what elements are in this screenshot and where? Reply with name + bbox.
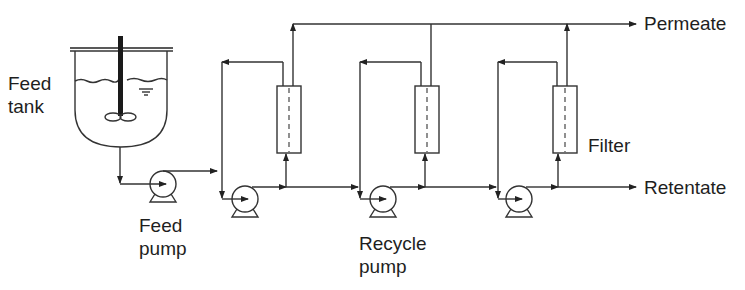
feed-pump — [150, 171, 217, 202]
feed-pump-label-line2: pump — [139, 237, 187, 260]
feed-pump-label-line1: Feed — [139, 214, 187, 237]
agitator-shaft — [118, 36, 123, 116]
stage-1 — [222, 24, 301, 217]
recycle-pump-2 — [370, 186, 396, 217]
feed-pump-label: Feed pump — [139, 214, 187, 260]
recycle-pump-label-line2: pump — [359, 255, 427, 278]
feed-line — [120, 147, 166, 184]
feed-tank-label: Feed tank — [8, 72, 51, 118]
retentate-label: Retentate — [644, 176, 726, 199]
recycle-pump-3 — [506, 186, 532, 217]
impeller-right — [120, 113, 136, 121]
impeller-left — [105, 113, 121, 121]
feed-tank — [70, 36, 173, 147]
permeate-label: Permeate — [644, 12, 726, 35]
filter-label: Filter — [588, 134, 630, 157]
feed-tank-label-line1: Feed — [8, 72, 51, 95]
feed-tank-label-line2: tank — [8, 95, 51, 118]
recycle-pump-label-line1: Recycle — [359, 232, 427, 255]
stage-2 — [360, 24, 439, 217]
recycle-pump-label: Recycle pump — [359, 232, 427, 278]
stage-3 — [498, 24, 577, 217]
liquid-level-symbol — [139, 89, 153, 95]
recycle-pump-1 — [232, 186, 258, 217]
